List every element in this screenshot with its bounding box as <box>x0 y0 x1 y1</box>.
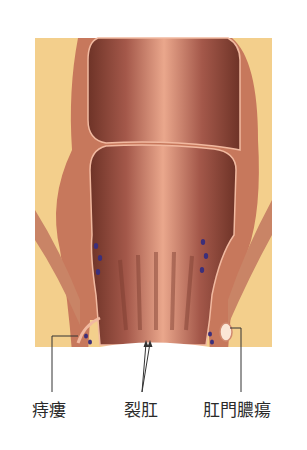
anal-canal-diagram <box>0 0 307 450</box>
label-anal-abscess: 肛門膿瘍 <box>203 396 271 421</box>
rectal-lumen-upper <box>88 38 240 150</box>
label-anal-fissure: 裂肛 <box>124 396 158 421</box>
label-anal-fistula: 痔瘻 <box>32 396 66 421</box>
abscess-site <box>220 323 232 341</box>
